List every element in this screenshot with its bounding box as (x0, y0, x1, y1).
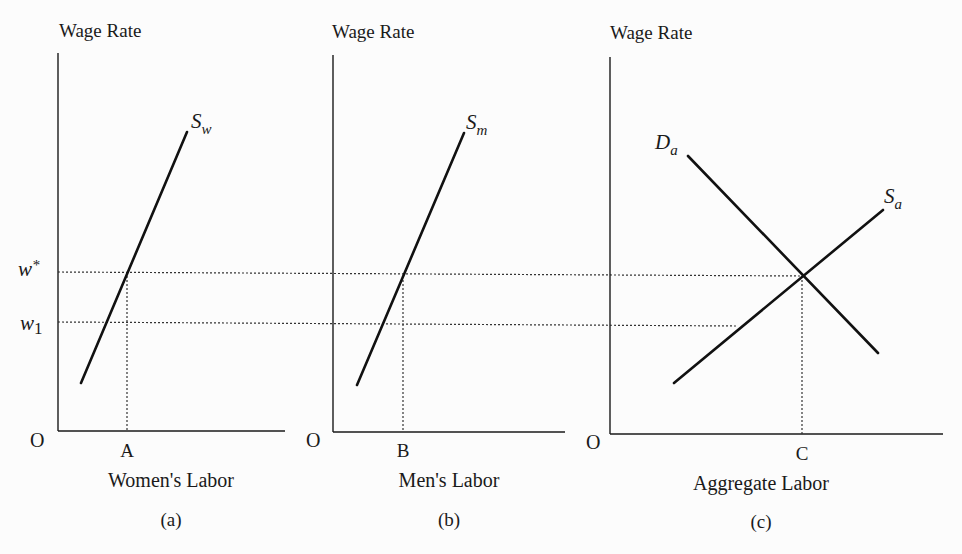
x-axis-label: Aggregate Labor (693, 472, 829, 495)
w1-reference-line (58, 322, 738, 326)
x-tick-label: B (397, 440, 410, 461)
supply-curve-men (357, 133, 464, 385)
origin-label: O (30, 429, 44, 451)
curve-label: Sw (191, 109, 212, 137)
demand-curve-label: Da (654, 130, 678, 158)
panel-caption: (a) (160, 509, 181, 531)
supply-curve-aggregate (674, 210, 883, 383)
w-star-label: w* (18, 257, 40, 281)
y-axis-label: Wage Rate (610, 22, 692, 43)
w-star-reference-line (58, 272, 802, 276)
x-tick-label: A (120, 440, 134, 461)
panel-c: Wage Rate Da Sa O C Aggregate Labor (c) (586, 22, 943, 533)
y-axis-label: Wage Rate (332, 21, 414, 42)
supply-curve-label: Sa (884, 184, 902, 212)
origin-label: O (306, 429, 320, 451)
curve-label: Sm (466, 110, 488, 138)
y-axis-label: Wage Rate (59, 20, 141, 41)
labor-market-diagram: Wage Rate Sw w* w1 O A Women's Labor (a)… (0, 0, 962, 554)
origin-label: O (586, 431, 600, 453)
demand-curve-aggregate (688, 156, 878, 353)
panel-caption: (c) (750, 511, 771, 533)
x-tick-label: C (796, 443, 809, 464)
panel-b: Wage Rate Sm O B Men's Labor (b) (306, 21, 565, 531)
supply-curve-women (81, 132, 187, 383)
w1-label: w1 (20, 311, 43, 338)
x-axis-label: Men's Labor (399, 469, 500, 491)
panel-caption: (b) (438, 509, 460, 531)
x-axis-label: Women's Labor (108, 469, 234, 491)
panel-a: Wage Rate Sw w* w1 O A Women's Labor (a) (18, 20, 285, 531)
